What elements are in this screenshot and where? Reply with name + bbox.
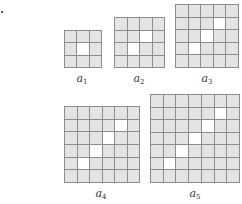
grid-cell <box>226 5 238 17</box>
grid-cell <box>115 18 127 30</box>
grid-cell <box>164 108 176 120</box>
grid-cell <box>78 132 90 144</box>
highlighted-cell <box>78 158 90 170</box>
highlighted-cell <box>164 158 176 170</box>
grid-cell <box>90 56 101 67</box>
grid-cell <box>128 170 140 182</box>
grid-cell <box>226 18 238 30</box>
grid-cell <box>90 120 102 132</box>
grid-cell <box>176 5 188 17</box>
grid-cell <box>65 158 77 170</box>
grid-cell <box>153 43 165 55</box>
grid-cell <box>164 145 176 157</box>
grid-cell <box>176 95 188 107</box>
grid-a3 <box>175 4 239 68</box>
grid-cell <box>128 120 140 132</box>
grid-cell <box>202 95 214 107</box>
grid-cell <box>128 132 140 144</box>
grid-cell <box>115 43 127 55</box>
grid-cell <box>215 158 227 170</box>
highlighted-cell <box>77 43 88 54</box>
bullet-dot <box>1 11 3 13</box>
grid-cell <box>176 55 188 67</box>
grid-cell <box>202 145 214 157</box>
grid-cell <box>78 120 90 132</box>
grid-cell <box>90 158 102 170</box>
grid-cell <box>103 107 115 119</box>
grid-cell <box>189 120 201 132</box>
grid-cell <box>140 18 152 30</box>
grid-cell <box>227 170 239 182</box>
grid-cell <box>176 30 188 42</box>
grid-cell <box>128 31 140 43</box>
panel-label-a4: a4 <box>95 187 106 201</box>
grid-cell <box>189 18 201 30</box>
grid-cell <box>65 31 76 42</box>
grid-cell <box>214 5 226 17</box>
highlighted-cell <box>115 120 127 132</box>
label-subscript: 3 <box>208 78 212 86</box>
grid-cell <box>189 55 201 67</box>
grid-cell <box>151 95 163 107</box>
grid-cell <box>65 170 77 182</box>
grid-cell <box>189 170 201 182</box>
highlighted-cell <box>128 43 140 55</box>
grid-cell <box>153 31 165 43</box>
label-subscript: 5 <box>196 193 200 201</box>
grid-cell <box>227 158 239 170</box>
grid-cell <box>65 107 77 119</box>
grid-cell <box>201 43 213 55</box>
grid-cell <box>65 43 76 54</box>
panel-label-a1: a1 <box>76 72 87 86</box>
grid-cell <box>176 133 188 145</box>
panel-label-a5: a5 <box>189 187 200 201</box>
highlighted-cell <box>215 108 227 120</box>
grid-cell <box>189 95 201 107</box>
grid-cell <box>65 120 77 132</box>
grid-cell <box>65 56 76 67</box>
highlighted-cell <box>201 30 213 42</box>
grid-cell <box>215 133 227 145</box>
grid-cell <box>215 120 227 132</box>
grid-cell <box>153 18 165 30</box>
highlighted-cell <box>176 145 188 157</box>
grid-cell <box>189 5 201 17</box>
grid-cell <box>164 170 176 182</box>
grid-cell <box>176 18 188 30</box>
grid-cell <box>103 158 115 170</box>
grid-cell <box>128 56 140 68</box>
highlighted-cell <box>103 132 115 144</box>
grid-a1 <box>64 30 102 68</box>
grid-cell <box>215 145 227 157</box>
grid-a5 <box>150 94 240 183</box>
grid-cell <box>115 31 127 43</box>
grid-cell <box>115 170 127 182</box>
grid-cell <box>77 31 88 42</box>
grid-cell <box>227 108 239 120</box>
grid-cell <box>164 120 176 132</box>
grid-cell <box>65 145 77 157</box>
grid-cell <box>128 18 140 30</box>
grid-cell <box>128 145 140 157</box>
grid-cell <box>227 120 239 132</box>
highlighted-cell <box>189 133 201 145</box>
grid-cell <box>103 120 115 132</box>
grid-cell <box>90 31 101 42</box>
grid-cell <box>78 107 90 119</box>
grid-cell <box>115 158 127 170</box>
grid-cell <box>215 170 227 182</box>
grid-cell <box>115 107 127 119</box>
grid-cell <box>189 30 201 42</box>
highlighted-cell <box>214 18 226 30</box>
grid-cell <box>189 158 201 170</box>
grid-cell <box>128 158 140 170</box>
grid-cell <box>176 108 188 120</box>
grid-cell <box>151 145 163 157</box>
grid-cell <box>115 145 127 157</box>
grid-cell <box>176 43 188 55</box>
grid-cell <box>189 108 201 120</box>
highlighted-cell <box>202 120 214 132</box>
grid-cell <box>227 133 239 145</box>
grid-cell <box>201 55 213 67</box>
grid-cell <box>214 30 226 42</box>
